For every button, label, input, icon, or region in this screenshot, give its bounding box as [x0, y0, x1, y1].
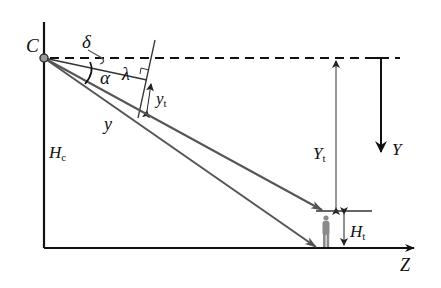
ray-to-head [44, 58, 322, 210]
camera-height-label: Hc [48, 143, 66, 163]
y-axis-arrow [372, 58, 381, 152]
alpha-label: α [100, 67, 111, 88]
camera-point [40, 54, 48, 62]
target-distance-label: Yt [313, 144, 326, 164]
y-axis-label: Y [392, 140, 403, 159]
z-axis-label: Z [400, 255, 411, 275]
ray-to-feet [44, 58, 316, 247]
focal-lambda-label: λ [121, 64, 130, 84]
person-icon [323, 215, 330, 247]
target-height-label: Ht [349, 222, 365, 242]
tilt-delta-label: δ [82, 31, 92, 52]
diagram-canvas: C δ α λ yt y Hc Yt Y Ht Z [0, 0, 441, 288]
yt-offset-arrow [147, 84, 151, 111]
camera-label: C [26, 35, 39, 56]
camera-geometry-diagram: C δ α λ yt y Hc Yt Y Ht Z [0, 0, 441, 288]
yt-image-label: yt [154, 89, 167, 109]
ray-y-label: y [102, 114, 112, 134]
